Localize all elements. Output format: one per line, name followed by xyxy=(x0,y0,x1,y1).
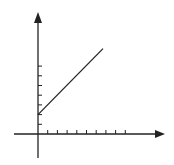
axis-ticks xyxy=(38,66,125,134)
y-axis-arrow-icon xyxy=(34,12,42,23)
data-series xyxy=(38,49,103,115)
series-line xyxy=(38,49,103,115)
axes xyxy=(14,12,165,158)
x-axis-arrow-icon xyxy=(155,130,165,138)
line-chart xyxy=(0,0,174,165)
